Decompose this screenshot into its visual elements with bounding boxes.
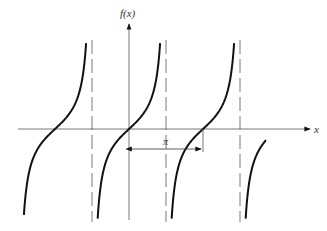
tangent-graph: f(x) x π <box>0 0 327 231</box>
curve-branches <box>24 43 266 218</box>
period-label: π <box>163 136 169 147</box>
asymptotes <box>92 40 240 222</box>
x-axis-label: x <box>313 123 319 135</box>
curve-branch-4 <box>246 140 266 218</box>
y-axis-label: f(x) <box>120 7 136 20</box>
